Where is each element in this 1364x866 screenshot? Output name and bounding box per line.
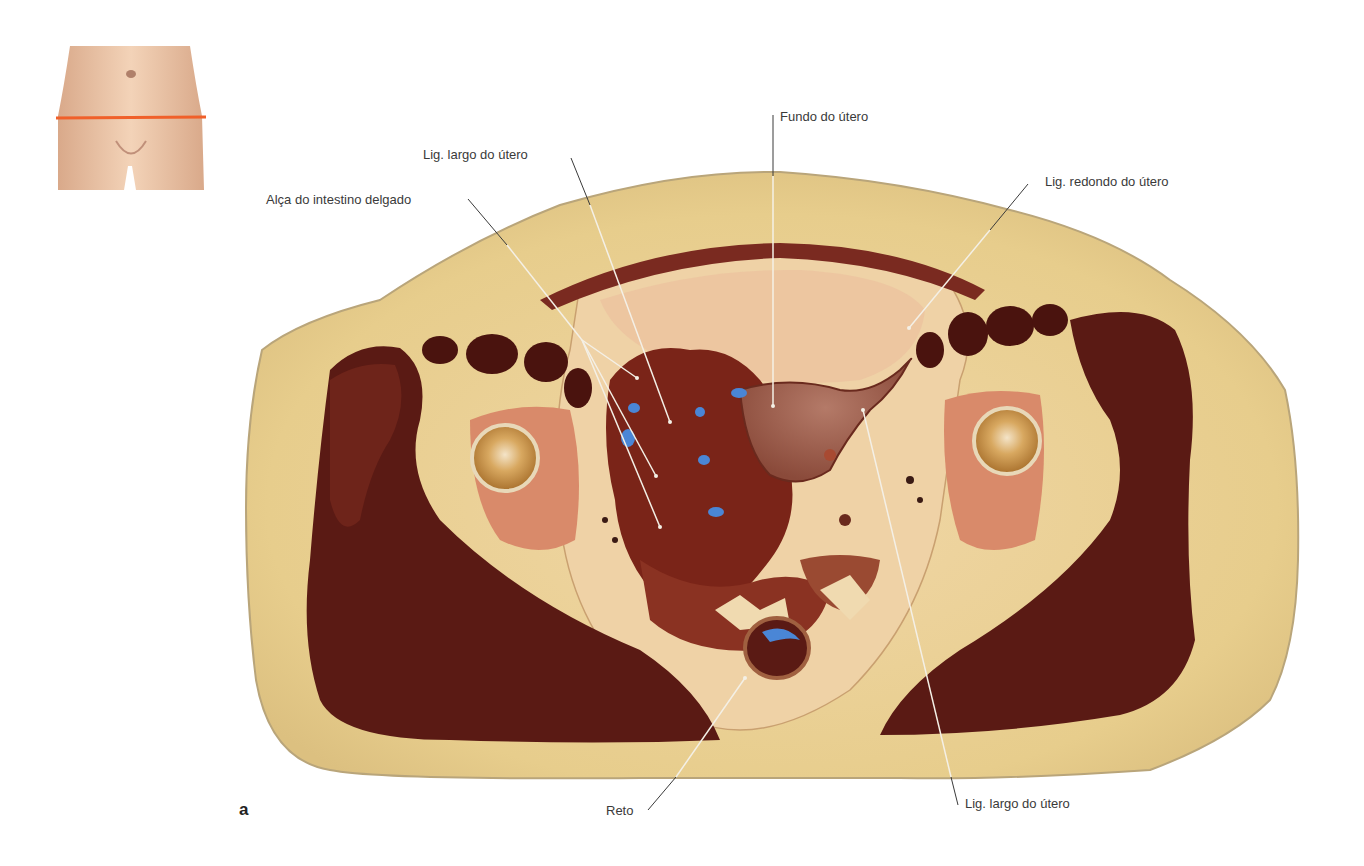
right-femoral-head [974, 408, 1040, 474]
label-alca-do-intestino-delgado: Alça do intestino delgado [266, 192, 411, 208]
label-lig-largo-do-utero-bottom: Lig. largo do útero [965, 796, 1070, 812]
label-lig-largo-do-utero-top: Lig. largo do útero [423, 147, 528, 163]
label-fundo-do-utero: Fundo do útero [780, 109, 868, 125]
panel-letter: a [239, 800, 248, 820]
label-lig-redondo-do-utero: Lig. redondo do útero [1045, 174, 1169, 190]
pelvic-cross-section [0, 0, 1364, 866]
rectum [745, 618, 809, 678]
left-femoral-head [472, 425, 538, 491]
label-reto: Reto [606, 803, 633, 819]
